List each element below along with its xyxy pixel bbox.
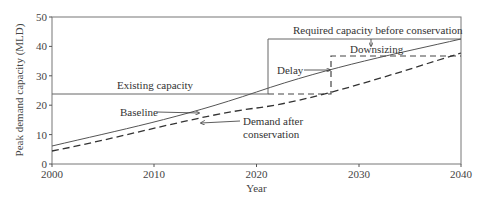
x-tick-label: 2020: [246, 168, 269, 180]
x-tick-label: 2010: [143, 168, 166, 180]
demand-label-line1: Demand after: [243, 115, 303, 127]
y-tick-label: 30: [36, 70, 48, 82]
existing-capacity-label: Existing capacity: [117, 79, 194, 91]
y-tick-label: 50: [36, 11, 48, 23]
x-tick-label: 2000: [41, 168, 64, 180]
y-tick-label: 20: [36, 99, 48, 111]
demand-label-line2: conservation: [243, 128, 300, 140]
required-capacity-label: Required capacity before conservation: [293, 24, 463, 36]
x-axis-title: Year: [246, 182, 267, 194]
downsizing-label: Downsizing: [350, 43, 404, 55]
y-tick-label: 10: [36, 129, 48, 141]
delay-label: Delay: [277, 64, 304, 76]
y-tick-label: 40: [36, 40, 48, 52]
demand-arrow-icon: [201, 121, 240, 123]
x-tick-label: 2030: [348, 168, 371, 180]
chart: 0 10 20 30 40 50 2000 2010 2020 2030 204…: [0, 0, 487, 202]
x-tick-label: 2040: [450, 168, 473, 180]
y-axis-title: Peak demand capacity (MLD): [13, 23, 26, 156]
baseline-label: Baseline: [120, 106, 158, 118]
